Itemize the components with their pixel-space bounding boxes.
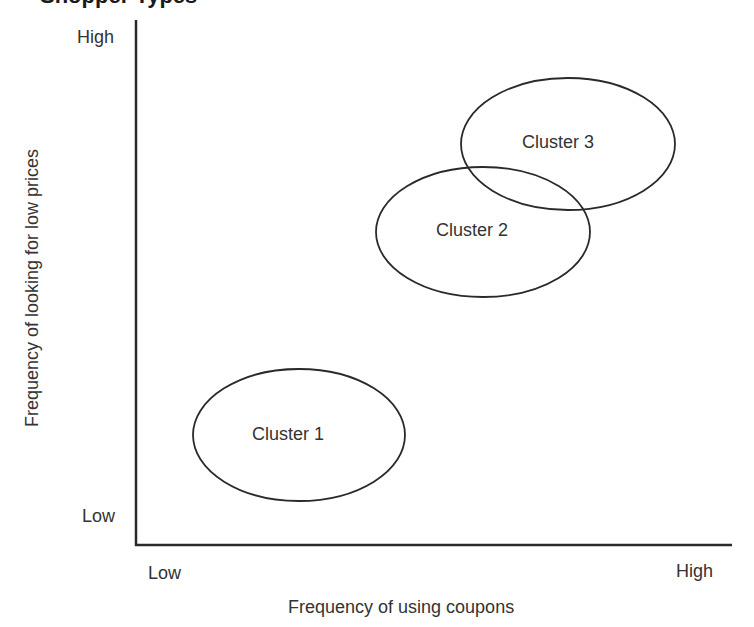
y-axis-high-label: High <box>77 27 114 48</box>
cluster-diagram <box>0 0 754 627</box>
cluster-3-label: Cluster 3 <box>522 132 594 153</box>
x-axis-low-label: Low <box>148 563 181 584</box>
cluster-1-label: Cluster 1 <box>252 424 324 445</box>
y-axis-low-label: Low <box>82 506 115 527</box>
x-axis-title: Frequency of using coupons <box>288 597 514 618</box>
y-axis-title: Frequency of looking for low prices <box>22 149 43 427</box>
x-axis-high-label: High <box>676 561 713 582</box>
cluster-2-label: Cluster 2 <box>436 220 508 241</box>
